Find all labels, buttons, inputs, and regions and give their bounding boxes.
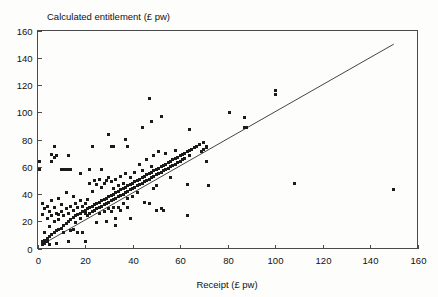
data-point: [88, 182, 91, 185]
data-point: [84, 240, 87, 243]
data-point: [50, 199, 53, 202]
data-point: [129, 176, 132, 179]
data-point: [84, 212, 87, 215]
data-point: [41, 202, 44, 205]
data-point: [79, 217, 82, 220]
y-tick-label: 40: [22, 189, 33, 200]
data-point: [72, 228, 75, 231]
data-point: [76, 231, 79, 234]
data-point: [152, 187, 155, 190]
plot-title: Calculated entitlement (£ pw): [47, 11, 170, 22]
data-point: [62, 231, 65, 234]
y-tick-label: 100: [17, 107, 33, 118]
data-point: [67, 212, 70, 215]
data-point: [69, 218, 72, 221]
data-point: [41, 213, 44, 216]
data-point: [136, 191, 139, 194]
data-point: [38, 168, 41, 171]
data-point: [112, 145, 115, 148]
data-point: [67, 154, 70, 157]
data-point: [119, 209, 122, 212]
data-point: [93, 179, 96, 182]
data-point: [74, 202, 77, 205]
data-point: [293, 182, 296, 185]
data-point: [124, 138, 127, 141]
data-point: [200, 150, 203, 153]
data-point: [122, 202, 125, 205]
data-point: [157, 150, 160, 153]
x-tick-label: 160: [411, 255, 427, 266]
data-point: [48, 225, 51, 228]
data-point: [50, 153, 53, 156]
data-point: [112, 206, 115, 209]
data-point: [141, 126, 144, 129]
data-point: [53, 220, 56, 223]
data-point: [207, 184, 210, 187]
data-point: [105, 220, 108, 223]
data-point: [110, 210, 113, 213]
y-tick-label: 160: [17, 26, 33, 37]
data-point: [117, 184, 120, 187]
data-point: [60, 203, 63, 206]
data-point: [86, 214, 89, 217]
data-point: [57, 213, 60, 216]
data-point: [98, 212, 101, 215]
data-point: [91, 190, 94, 193]
data-point: [57, 197, 60, 200]
data-point: [114, 178, 117, 181]
data-point: [148, 202, 151, 205]
data-point: [53, 206, 56, 209]
data-point: [88, 168, 91, 171]
data-point: [164, 152, 167, 155]
y-tick-label: 60: [22, 162, 33, 173]
data-point: [198, 143, 201, 146]
plot-background: [0, 0, 438, 297]
data-point: [38, 160, 41, 163]
data-point: [245, 126, 248, 129]
data-point: [155, 209, 158, 212]
data-point: [186, 183, 189, 186]
data-point: [50, 233, 53, 236]
data-point: [274, 89, 277, 92]
data-point: [126, 145, 129, 148]
data-point: [72, 209, 75, 212]
data-point: [124, 172, 127, 175]
data-point: [43, 207, 46, 210]
data-point: [126, 206, 129, 209]
data-point: [114, 217, 117, 220]
x-tick-label: 120: [316, 255, 332, 266]
data-point: [103, 182, 106, 185]
data-point: [60, 210, 63, 213]
data-point: [169, 176, 172, 179]
data-point: [160, 115, 163, 118]
y-tick-label: 80: [22, 135, 33, 146]
data-point: [188, 128, 191, 131]
x-tick-label: 0: [36, 255, 41, 266]
data-point: [186, 214, 189, 217]
data-point: [84, 202, 87, 205]
x-tick-label: 20: [80, 255, 91, 266]
data-point: [91, 145, 94, 148]
data-point: [50, 214, 53, 217]
data-point: [117, 206, 120, 209]
data-point: [95, 183, 98, 186]
x-tick-label: 80: [223, 255, 234, 266]
data-point: [46, 237, 49, 240]
data-point: [57, 218, 60, 221]
data-point: [205, 160, 208, 163]
y-tick-label: 0: [27, 244, 32, 255]
data-point: [143, 201, 146, 204]
data-point: [69, 205, 72, 208]
data-point: [98, 178, 101, 181]
data-point: [79, 199, 82, 202]
data-point: [174, 149, 177, 152]
data-point: [65, 191, 68, 194]
data-point: [119, 175, 122, 178]
data-point: [74, 221, 77, 224]
data-point: [162, 209, 165, 212]
data-point: [129, 217, 132, 220]
data-point: [65, 207, 68, 210]
x-tick-label: 100: [268, 255, 284, 266]
data-point: [205, 145, 208, 148]
data-point: [55, 154, 58, 157]
